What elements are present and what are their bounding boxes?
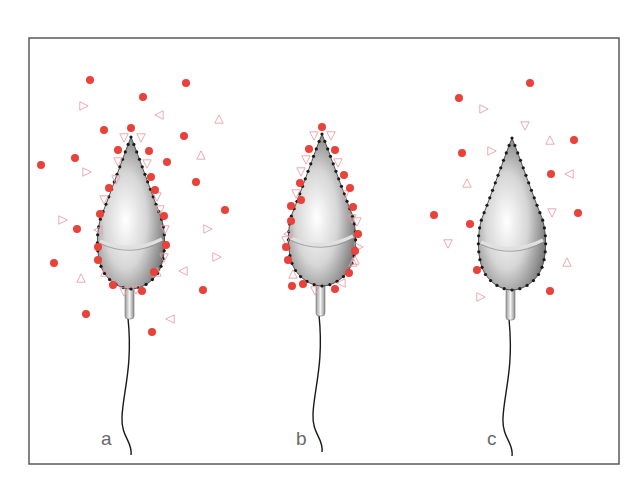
midpiece — [316, 284, 325, 316]
receptor-dot — [499, 166, 502, 169]
receptor-dot — [522, 166, 525, 169]
receptor-dot — [496, 174, 499, 177]
receptor-dot — [332, 162, 335, 165]
chemoattractant-dot — [570, 136, 578, 144]
chemoattractant-dot — [297, 196, 305, 204]
receptor-dot — [342, 275, 345, 278]
chemoattractant-dot — [288, 282, 296, 290]
receptor-dot — [519, 159, 522, 162]
chemoattractant-dot — [296, 179, 304, 187]
receptor-dot — [96, 233, 99, 236]
receptor-dot — [510, 136, 513, 139]
receptor-dot — [159, 265, 162, 268]
receptor-dot — [306, 170, 309, 173]
chemoattractant-dot — [473, 266, 481, 274]
receptor-dot — [326, 147, 329, 150]
chemoattractant-dot — [94, 256, 102, 264]
chemoattractant-dot — [340, 171, 348, 179]
receptor-dot — [354, 238, 357, 241]
receptor-dot — [103, 272, 106, 275]
chemoattractant-dot — [71, 154, 79, 162]
chemoattractant-dot — [346, 184, 354, 192]
chemoattractant-dot — [199, 286, 207, 294]
receptor-dot — [320, 284, 323, 287]
receptor-dot — [503, 287, 506, 290]
receptor-dot — [480, 266, 483, 269]
chemoattractant-dot — [100, 126, 108, 134]
receptor-dot — [544, 242, 547, 245]
receptor-dot — [129, 135, 132, 138]
receptor-dot — [132, 143, 135, 146]
chemoattractant-dot — [458, 149, 466, 157]
receptor-dot — [129, 287, 132, 290]
receptor-dot — [146, 180, 149, 183]
receptor-dot — [108, 278, 111, 281]
receptor-dot — [309, 162, 312, 165]
receptor-dot — [328, 283, 331, 286]
midpiece — [506, 288, 515, 320]
receptor-dot — [299, 275, 302, 278]
receptor-dot — [530, 189, 533, 192]
receptor-dot — [544, 250, 547, 253]
chemoattractant-dot — [182, 79, 190, 87]
receptor-dot — [143, 173, 146, 176]
receptor-dot — [538, 211, 541, 214]
receptor-dot — [540, 266, 543, 269]
receptor-dot — [516, 151, 519, 154]
receptor-dot — [329, 155, 332, 158]
chemoattractant-dot — [114, 146, 122, 154]
receptor-dot — [513, 144, 516, 147]
receptor-dot — [477, 234, 480, 237]
receptor-dot — [480, 219, 483, 222]
receptor-dot — [312, 155, 315, 158]
receptor-dot — [477, 250, 480, 253]
chemoattractant-dot — [139, 93, 147, 101]
chemoattractant-dot — [284, 256, 292, 264]
chemoattractant-dot — [147, 173, 155, 181]
receptor-dot — [99, 218, 102, 221]
receptor-dot — [502, 159, 505, 162]
receptor-dot — [477, 242, 480, 245]
receptor-dot — [127, 143, 130, 146]
chemoattractant-dot — [282, 243, 290, 251]
receptor-dot — [484, 273, 487, 276]
chemoattractant-dot — [331, 146, 339, 154]
chemoattractant-dot — [546, 287, 554, 295]
chemoattractant-dot — [221, 206, 229, 214]
chemoattractant-dot — [318, 123, 326, 131]
chemoattractant-dot — [94, 243, 102, 251]
chemoattractant-dot — [109, 281, 117, 289]
chemoattractant-dot — [287, 217, 295, 225]
receptor-dot — [482, 211, 485, 214]
receptor-dot — [318, 140, 321, 143]
chemoattractant-dot — [574, 209, 582, 217]
chemoattractant-dot — [287, 202, 295, 210]
receptor-dot — [532, 279, 535, 282]
receptor-dot — [524, 174, 527, 177]
receptor-dot — [495, 284, 498, 287]
receptor-dot — [320, 132, 323, 135]
receptor-dot — [491, 189, 494, 192]
receptor-dot — [505, 151, 508, 154]
receptor-dot — [542, 258, 545, 261]
chemoattractant-dot — [354, 230, 362, 238]
receptor-dot — [508, 144, 511, 147]
panel-label-b: b — [296, 428, 307, 450]
chemoattractant-dot — [73, 225, 81, 233]
receptor-dot — [544, 234, 547, 237]
chemoattractant-dot — [349, 203, 357, 211]
chemoattractant-dot — [299, 280, 307, 288]
chemoattractant-dot — [127, 124, 135, 132]
chemoattractant-dot — [96, 210, 104, 218]
receptor-dot — [537, 273, 540, 276]
receptor-dot — [340, 185, 343, 188]
chemoattractant-dot — [105, 184, 113, 192]
receptor-dot — [151, 278, 154, 281]
chemoattractant-dot — [547, 170, 555, 178]
chemoattractant-dot — [145, 147, 153, 155]
receptor-dot — [489, 279, 492, 282]
chemoattractant-dot — [430, 211, 438, 219]
chemoattractant-dot — [50, 259, 58, 267]
chemoattractant-dot — [150, 268, 158, 276]
receptor-dot — [510, 288, 513, 291]
